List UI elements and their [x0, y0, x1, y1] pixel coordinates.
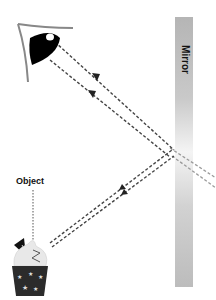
svg-text:★: ★: [28, 271, 33, 277]
arrow-icon: [119, 184, 128, 195]
object-label: Object: [16, 176, 44, 186]
reflected-rays: [50, 42, 174, 157]
svg-text:★: ★: [33, 286, 38, 292]
cupcake-icon: ★ ★ ★ ★ ★: [12, 238, 48, 296]
svg-text:★: ★: [38, 274, 43, 280]
svg-text:★: ★: [17, 274, 22, 280]
incident-rays: [50, 150, 174, 247]
svg-text:★: ★: [22, 284, 28, 291]
eye-icon: [18, 24, 73, 82]
mirror-label: Mirror: [180, 45, 191, 74]
mirror-label-container: Mirror: [176, 36, 194, 82]
